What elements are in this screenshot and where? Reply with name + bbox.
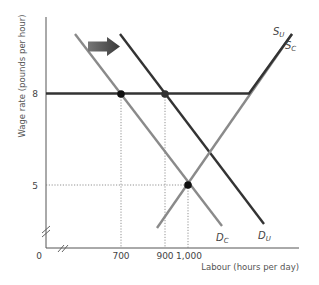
labour-market-chart: 8 5 0 700 900 1,000 Labour (hours per da… [0, 0, 319, 285]
demand-competitive-line [75, 34, 222, 226]
y-tick-8: 8 [32, 89, 38, 99]
guide-lines [46, 94, 188, 248]
curves [46, 34, 292, 228]
point-900-8 [161, 90, 169, 98]
origin-label: 0 [36, 251, 42, 261]
dc-label: DC [216, 232, 229, 245]
y-tick-5: 5 [32, 181, 38, 191]
y-axis-label: Wage rate (pounds per hour) [17, 14, 27, 137]
du-label: DU [258, 230, 271, 243]
shift-right-arrow-icon [88, 37, 120, 56]
x-tick-900: 900 [156, 251, 173, 261]
demand-union-line [120, 34, 264, 224]
axes [42, 17, 299, 252]
sc-label: SC [285, 40, 296, 53]
x-tick-1000: 1,000 [176, 251, 202, 261]
point-700-8 [117, 90, 125, 98]
x-axis-label: Labour (hours per day) [201, 262, 299, 272]
su-label: SU [273, 26, 284, 39]
x-tick-700: 700 [112, 251, 129, 261]
point-1000-5 [184, 181, 192, 189]
